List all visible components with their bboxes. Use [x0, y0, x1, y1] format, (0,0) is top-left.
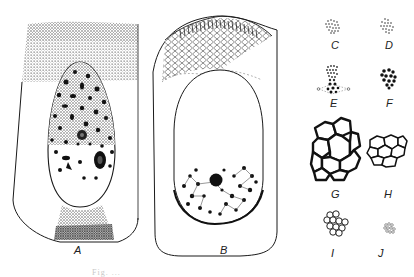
label-panel-g: G: [331, 189, 340, 200]
label-panel-j: J: [378, 248, 384, 259]
panel-e: [317, 65, 350, 94]
label-panel-f: F: [386, 98, 393, 109]
label-panel-a: A: [74, 245, 81, 256]
label-panel-i: I: [331, 248, 334, 259]
label-panel-h: H: [384, 189, 392, 200]
panel-f: [380, 68, 396, 89]
panel-h: [367, 135, 407, 167]
label-panel-b: B: [220, 245, 227, 256]
panel-c: [325, 19, 340, 34]
panel-j: [384, 223, 396, 234]
panel-d: [380, 18, 394, 34]
label-panel-d: D: [385, 40, 393, 51]
panel-g: [311, 118, 360, 180]
panel-a: [13, 22, 138, 242]
label-panel-e: E: [330, 98, 337, 109]
panel-i: [324, 211, 348, 236]
panel-b: [153, 16, 277, 256]
figure-caption: Fig. ...: [92, 268, 121, 277]
label-panel-c: C: [331, 40, 339, 51]
